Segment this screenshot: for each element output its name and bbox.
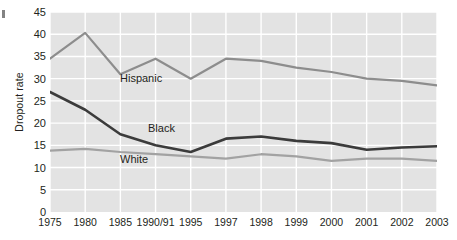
series-label-hispanic: Hispanic bbox=[120, 72, 162, 84]
x-axis-tick-label: 1975 bbox=[38, 216, 61, 228]
x-axis-tick-label: 2000 bbox=[320, 216, 343, 228]
y-axis-tick-labels: 051015202530354045 bbox=[22, 0, 46, 240]
y-axis-tick-label: 25 bbox=[24, 95, 46, 107]
dropout-rate-line-chart: Dropout rate 051015202530354045 Hispanic… bbox=[0, 0, 457, 240]
x-axis-tick-label: 1997 bbox=[214, 216, 237, 228]
y-axis-tick-label: 5 bbox=[24, 184, 46, 196]
chart-canvas bbox=[50, 12, 437, 212]
series-label-white: White bbox=[120, 153, 148, 165]
series-line-white bbox=[50, 149, 437, 161]
y-axis-tick-label: 10 bbox=[24, 162, 46, 174]
series-lines bbox=[50, 33, 437, 161]
y-axis-tick-label: 30 bbox=[24, 73, 46, 85]
x-axis-tick-label: 2001 bbox=[355, 216, 378, 228]
x-axis-tick-label: 1998 bbox=[249, 216, 272, 228]
x-axis-tick-label: 2002 bbox=[390, 216, 413, 228]
y-axis-tick-label: 35 bbox=[24, 50, 46, 62]
x-axis-tick-label: 1980 bbox=[73, 216, 96, 228]
y-axis-tick-label: 40 bbox=[24, 28, 46, 40]
y-axis-tick-label: 15 bbox=[24, 139, 46, 151]
x-axis-tick-label: 1999 bbox=[285, 216, 308, 228]
x-axis-tick-label: 1985 bbox=[109, 216, 132, 228]
series-label-black: Black bbox=[148, 122, 175, 134]
y-axis-tick-label: 45 bbox=[24, 6, 46, 18]
cropped-glyph-artifact bbox=[2, 10, 5, 18]
x-axis-tick-label: 1995 bbox=[179, 216, 202, 228]
x-axis-tick-label: 1990/91 bbox=[137, 216, 175, 228]
series-line-hispanic bbox=[50, 33, 437, 85]
vertical-gridlines bbox=[50, 12, 437, 212]
x-axis-tick-labels: 1975198019851990/91199519971998199920002… bbox=[0, 216, 457, 236]
plot-area bbox=[50, 12, 437, 212]
horizontal-gridlines bbox=[50, 12, 437, 190]
y-axis-tick-label: 20 bbox=[24, 117, 46, 129]
x-axis-tick-label: 2003 bbox=[425, 216, 448, 228]
